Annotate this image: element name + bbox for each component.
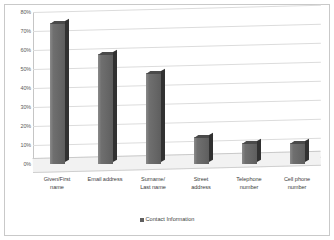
gridline <box>33 119 321 127</box>
x-axis-category-label: Cell phonenumber <box>273 176 321 191</box>
y-axis-tick-label: 30% <box>4 104 31 110</box>
bar <box>50 23 65 164</box>
bar-column <box>242 143 257 164</box>
gridline <box>33 100 321 108</box>
chart-legend: Contact Information <box>0 216 334 223</box>
y-axis-tick-label: 20% <box>4 123 31 129</box>
y-axis-tick-label: 50% <box>4 66 31 72</box>
y-axis-tick-label: 80% <box>4 9 31 15</box>
x-axis-category-label: Given/Firstname <box>33 176 81 191</box>
x-axis-labels: Given/FirstnameEmail addressSurname/Last… <box>33 176 321 206</box>
bar <box>290 143 305 164</box>
gridline <box>33 81 321 89</box>
x-axis-category-label: Telephonenumber <box>225 176 273 191</box>
y-axis-labels: 0%10%20%30%40%50%60%70%80% <box>4 12 31 164</box>
bar-column <box>290 143 305 164</box>
y-axis-tick-label: 70% <box>4 28 31 34</box>
gridline <box>33 24 321 32</box>
x-axis-category-label: Streetaddress <box>177 176 225 191</box>
bar <box>146 73 161 164</box>
bar <box>98 54 113 164</box>
y-axis-tick-label: 40% <box>4 85 31 91</box>
chart-container: 0%10%20%30%40%50%60%70%80% Given/Firstna… <box>0 0 334 240</box>
bar <box>242 143 257 164</box>
gridline <box>33 62 321 70</box>
bar-column <box>146 73 161 164</box>
y-axis-tick-label: 10% <box>4 142 31 148</box>
plot-area <box>33 12 321 164</box>
legend-square-marker-icon <box>140 218 144 222</box>
bar <box>194 137 209 164</box>
legend-label: Contact Information <box>146 216 195 223</box>
x-axis-category-label: Surname/Last name <box>129 176 177 191</box>
x-axis-category-label: Email address <box>81 176 129 184</box>
bar-column <box>98 54 113 164</box>
gridline <box>33 43 321 51</box>
y-axis-tick-label: 60% <box>4 47 31 53</box>
bar-column <box>50 23 65 164</box>
y-axis-tick-label: 0% <box>4 161 31 167</box>
gridline <box>33 138 321 146</box>
bar-column <box>194 137 209 164</box>
